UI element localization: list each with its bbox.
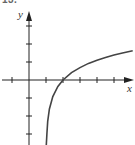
axes [2,11,134,145]
y-axis-arrow-icon [26,11,32,21]
function-plot: x y [0,0,135,145]
x-axis-label: x [126,82,132,94]
y-axis-label: y [17,8,23,20]
function-curve [46,51,132,145]
